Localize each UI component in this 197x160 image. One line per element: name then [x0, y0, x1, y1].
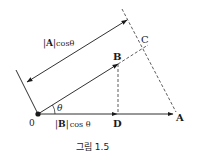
origin-point	[35, 111, 40, 116]
origin-label: 0	[29, 118, 35, 128]
svg-text:|B|cos θ: |B|cos θ	[55, 119, 91, 130]
point-A-label: A	[175, 112, 184, 123]
dashed-line-C-A	[122, 9, 176, 112]
vector-projection-diagram: 0 θ B C D A |A|cosθ |B|cos θ 그림 1.5	[0, 0, 197, 160]
point-C-label: C	[141, 34, 149, 45]
vector-B	[38, 64, 118, 114]
svg-text:|A|cosθ: |A|cosθ	[43, 38, 74, 49]
perpendicular-line	[16, 70, 38, 114]
B-projection-label: |B|cos θ	[55, 119, 91, 130]
angle-label: θ	[57, 103, 63, 113]
figure-caption: 그림 1.5	[76, 141, 109, 152]
point-D-label: D	[113, 118, 122, 129]
dashed-line-B-C	[118, 45, 148, 64]
angle-arc	[53, 105, 56, 114]
dimension-line-A-projection	[27, 20, 127, 82]
point-B-label: B	[113, 51, 121, 62]
A-projection-label: |A|cosθ	[43, 38, 74, 49]
